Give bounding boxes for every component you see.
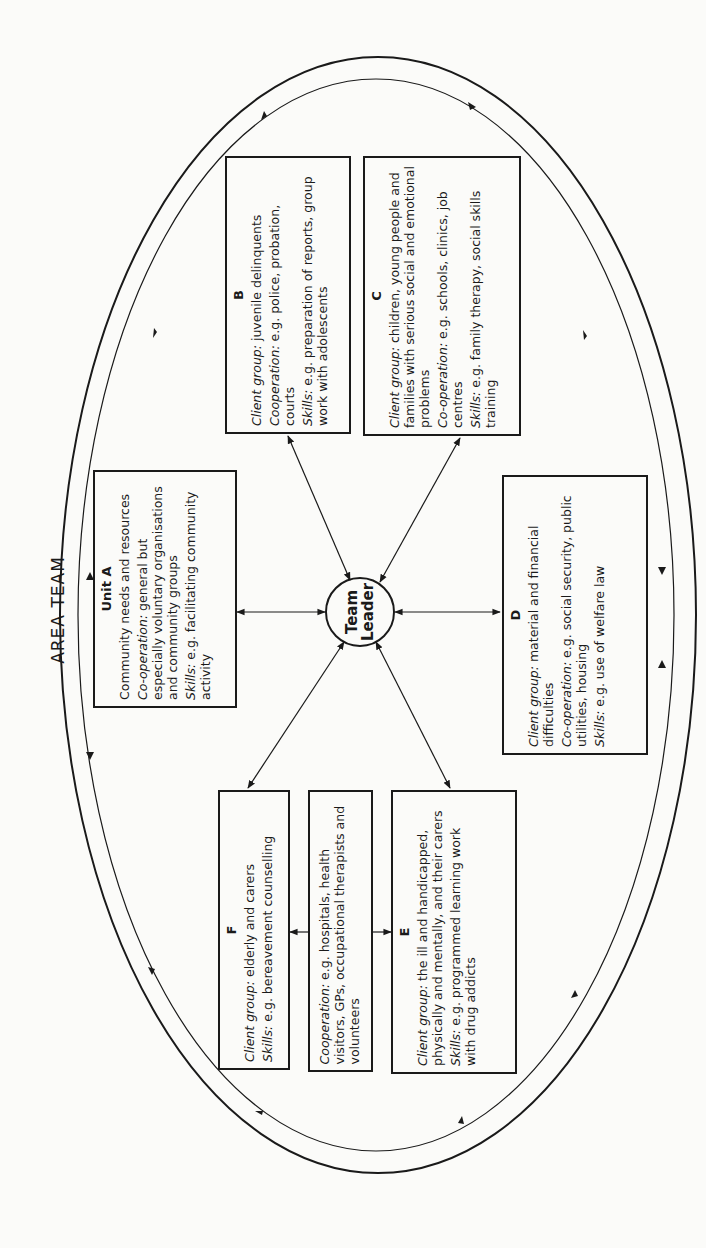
unit-f-skills: e.g. bereavement counselling [260,836,275,1022]
unit-b-skills-label: Skills: [300,390,315,426]
unit-b-box: B Client group: juvenile delinquents Coo… [225,156,351,434]
unit-a-box: Unit A Community needs and resources Co-… [93,470,237,708]
team-leader-line1: Team [344,582,360,642]
spoke-f [248,642,344,788]
unit-f-client-label: Client group: [242,981,257,1062]
unit-e-title: E [397,798,412,1066]
team-leader-label: Team Leader [344,582,376,642]
unit-c-skills-label: Skills: [468,392,483,428]
unit-b-title: B [231,164,246,426]
unit-e-box: E Client group: the ill and handicapped,… [391,790,517,1074]
unit-e-skills-label: Skills: [448,1030,463,1066]
team-leader-line2: Leader [360,582,376,642]
unit-d-client-label: Client group: [526,666,541,747]
spoke-e [376,642,450,788]
unit-c-client-label: Client group: [387,347,402,428]
unit-b-client-label: Client group: [249,345,264,426]
unit-f-title: F [224,798,239,1062]
unit-e-client-label: Client group: [415,985,430,1066]
unit-c-title: C [369,164,384,428]
area-team-label: AREA TEAM [48,556,68,664]
unit-a-focus: Community needs and resources [117,478,132,700]
unit-d-title: D [508,483,523,747]
unit-f-box: F Client group: elderly and carers Skill… [218,790,290,1070]
spoke-b [288,436,350,580]
unit-d-coop-label: Co-operation: [559,662,574,747]
unit-d-skills: e.g. use of welfare law [592,566,607,707]
unit-f-client: elderly and carers [242,864,257,977]
unit-a-coop-label: Co-operation: [135,615,150,700]
unit-c-box: C Client group: children, young people a… [363,156,521,436]
unit-d-box: D Client group: material and financial d… [502,475,648,755]
unit-c-coop-label: Co-operation: [435,343,450,428]
unit-a-title: Unit A [99,478,114,700]
ef-cooperation-box: Cooperation: e.g. hospitals, health visi… [308,790,373,1072]
unit-b-skills: e.g. preparation of reports, group work … [300,176,330,426]
ef-coop-label: Cooperation: [316,984,331,1065]
spoke-c [380,438,460,582]
unit-b-client: juvenile delinquents [249,215,264,341]
unit-a-skills-label: Skills: [183,664,198,700]
unit-f-skills-label: Skills: [260,1026,275,1062]
unit-b-coop-label: Cooperation: [267,345,282,426]
unit-d-skills-label: Skills: [592,711,607,747]
